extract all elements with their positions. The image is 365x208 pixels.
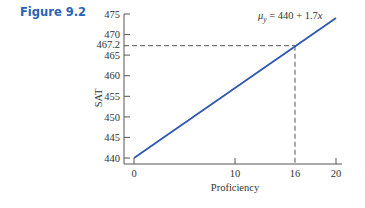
regression-line [134,18,336,158]
x-axis [134,158,342,164]
x-axis-title: Proficiency [211,182,260,193]
svg-text:475: 475 [104,9,120,20]
svg-text:465: 465 [104,50,120,61]
line-chart: 475 470 467.2 465 460 455 450 445 440 0 … [0,0,365,208]
svg-text:16: 16 [290,168,301,179]
svg-text:10: 10 [230,168,241,179]
svg-text:20: 20 [331,168,342,179]
svg-text:460: 460 [104,70,120,81]
svg-text:455: 455 [104,91,120,102]
x-tick-labels: 0 10 16 20 [131,168,341,179]
y-axis [124,14,134,164]
y-axis-title: SAT [93,88,104,107]
y-tick-labels: 475 470 467.2 465 460 455 450 445 440 [96,9,120,164]
equation-annotation: μy = 440 + 1.7x [257,10,323,24]
svg-text:0: 0 [131,168,136,179]
svg-text:440: 440 [104,153,120,164]
svg-text:467.2: 467.2 [96,39,120,50]
svg-text:450: 450 [104,112,120,123]
svg-text:445: 445 [104,132,120,143]
